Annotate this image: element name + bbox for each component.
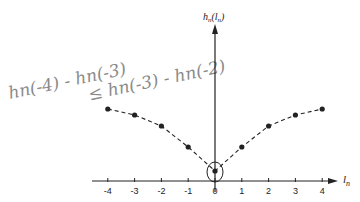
x-tick-label: 3 <box>293 186 298 196</box>
x-axis-label: ln <box>343 173 350 188</box>
chart-figure: hn(-4) - hn(-3) ≤ hn(-3) - hn(-2) hn(ln)… <box>0 0 360 202</box>
x-tick-label: 1 <box>239 186 244 196</box>
x-tick-label: -2 <box>157 186 165 196</box>
y-axis-label: hn(ln) <box>203 11 225 24</box>
data-point <box>320 106 325 111</box>
x-tick-label: -4 <box>104 186 112 196</box>
data-point <box>159 123 164 128</box>
data-point <box>266 123 271 128</box>
x-tick-label: -3 <box>131 186 139 196</box>
x-tick-label: 0 <box>212 186 217 196</box>
x-axis-arrow-icon <box>328 178 338 184</box>
data-point <box>239 144 244 149</box>
x-tick-label: 2 <box>266 186 271 196</box>
handwritten-annotation: hn(-4) - hn(-3) ≤ hn(-3) - hn(-2) <box>6 38 227 120</box>
y-axis-arrow-icon <box>212 24 218 34</box>
data-point <box>105 106 110 111</box>
x-tick-label: 4 <box>320 186 325 196</box>
data-point <box>212 168 217 173</box>
x-axis: ln -4-3-2-101234 <box>92 173 350 196</box>
data-point <box>186 144 191 149</box>
data-point <box>132 112 137 117</box>
data-point <box>293 112 298 117</box>
x-tick-label: -1 <box>184 186 192 196</box>
